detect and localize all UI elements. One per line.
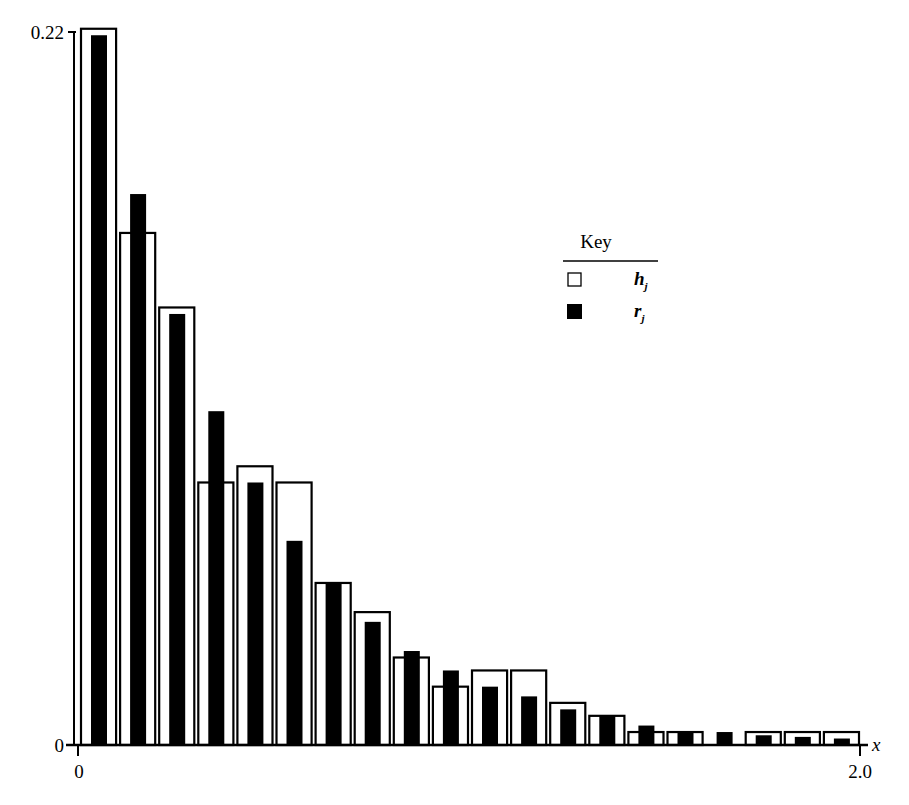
legend: Key hj rj — [563, 231, 658, 324]
bar-r-9 — [404, 651, 420, 745]
bar-r-12 — [521, 696, 537, 745]
bar-r-2 — [130, 194, 146, 745]
bar-r-8 — [365, 622, 381, 745]
legend-filled-square-icon — [567, 304, 582, 319]
legend-label-h: hj — [634, 268, 649, 292]
bar-r-3 — [169, 314, 185, 745]
bar-r-11 — [482, 687, 498, 745]
bar-r-18 — [756, 735, 772, 745]
y-tick-label-max: 0.22 — [31, 22, 64, 43]
bar-r-6 — [287, 541, 303, 745]
bar-r-5 — [247, 482, 263, 745]
histogram-chart: 0.22 0 0 2.0 x Key hj rj — [0, 0, 909, 805]
bar-r-4 — [208, 411, 224, 745]
x-axis-label: x — [871, 734, 881, 755]
y-tick-label-min: 0 — [55, 735, 65, 756]
bar-r-14 — [599, 716, 615, 745]
x-tick-label-max: 2.0 — [848, 761, 872, 782]
bar-r-1 — [91, 35, 107, 745]
x-tick-label-min: 0 — [74, 761, 84, 782]
bar-r-13 — [560, 709, 576, 745]
bar-r-15 — [638, 726, 654, 745]
bar-r-16 — [678, 732, 694, 745]
bar-r-10 — [443, 670, 459, 745]
bars-group — [81, 29, 859, 745]
bar-r-17 — [717, 732, 733, 745]
legend-open-square-icon — [568, 273, 581, 286]
legend-label-r: rj — [634, 300, 645, 324]
legend-title: Key — [580, 231, 612, 252]
bar-r-7 — [326, 583, 342, 745]
